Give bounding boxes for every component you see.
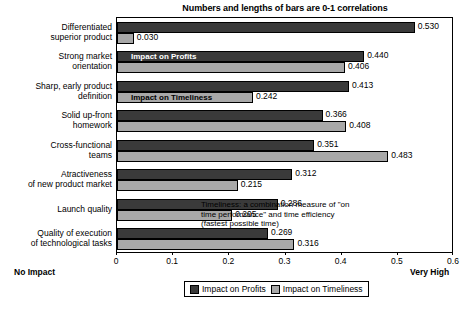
bar-impact-on-timeliness xyxy=(117,180,238,191)
y-axis-label-line: Sharp, early product xyxy=(0,81,112,91)
timeliness-annotation: Timeliness: a combination measure of "on… xyxy=(201,200,351,229)
x-axis-tick-mark xyxy=(172,252,173,255)
bar-impact-on-timeliness xyxy=(117,151,388,162)
y-axis-label: Strong marketorientation xyxy=(0,51,112,71)
bar-value-label: 0.530 xyxy=(418,21,439,32)
x-axis-tick-label: 0.4 xyxy=(335,256,347,266)
bar-row: 0.312 xyxy=(117,169,452,180)
y-axis-label-line: Differentiated xyxy=(0,22,112,32)
category-group: 0.3120.215 xyxy=(117,166,452,196)
bar-value-label: 0.440 xyxy=(367,50,388,61)
y-axis-label: Cross-functionalteams xyxy=(0,140,112,160)
bar-value-label: 0.030 xyxy=(137,32,158,43)
bar-row: 0.366 xyxy=(117,110,452,121)
y-axis-label-line: teams xyxy=(0,150,112,160)
bar-value-label: 0.413 xyxy=(352,80,373,91)
y-axis-category-labels: Differentiatedsuperior productStrong mar… xyxy=(0,17,112,253)
y-axis-label-line: orientation xyxy=(0,61,112,71)
y-axis-label-line: Atractiveness xyxy=(0,169,112,179)
category-group: 0.3660.408 xyxy=(117,107,452,137)
x-axis-tick-label: 0 xyxy=(114,256,119,266)
axis-endpoint-right: Very High xyxy=(410,267,449,277)
bar-impact-on-profits xyxy=(117,140,314,151)
category-group: 0.5300.030 xyxy=(117,18,452,48)
x-axis-tick-mark xyxy=(397,252,398,255)
y-axis-label-line: superior product xyxy=(0,32,112,42)
bar-value-label: 0.483 xyxy=(391,150,412,161)
chart-title: Numbers and lengths of bars are 0-1 corr… xyxy=(116,3,454,13)
y-axis-label-line: Quality of execution xyxy=(0,228,112,238)
y-axis-label: Solid up-fronthomework xyxy=(0,110,112,130)
legend-label: Impact on Profits xyxy=(202,284,266,294)
inbar-series-label: Impact on Timeliness xyxy=(131,92,212,103)
bar-impact-on-timeliness xyxy=(117,239,294,250)
x-axis-tick-mark xyxy=(341,252,342,255)
bar-row: 0.269 xyxy=(117,228,452,239)
x-axis-tick-mark xyxy=(116,252,117,255)
legend-item[interactable]: Impact on Profits xyxy=(190,284,266,294)
y-axis-label-line: Cross-functional xyxy=(0,140,112,150)
bar-row: 0.408 xyxy=(117,121,452,132)
category-group: 0.4130.242Impact on Timeliness xyxy=(117,77,452,107)
bar-row: 0.030 xyxy=(117,33,452,44)
bar-value-label: 0.242 xyxy=(256,91,277,102)
x-axis-tick-mark xyxy=(285,252,286,255)
bar-row: 0.215 xyxy=(117,180,452,191)
legend-label: Impact on Timeliness xyxy=(283,284,363,294)
bar-impact-on-profits xyxy=(117,81,349,92)
legend-swatch-icon xyxy=(271,285,280,294)
bar-value-label: 0.351 xyxy=(317,139,338,150)
y-axis-label-line: Strong market xyxy=(0,51,112,61)
x-axis-tick-mark xyxy=(228,252,229,255)
bar-row: 0.483 xyxy=(117,151,452,162)
bar-impact-on-timeliness xyxy=(117,33,134,44)
bar-row: 0.316 xyxy=(117,239,452,250)
x-axis-tick-mark xyxy=(452,252,453,255)
bar-row: 0.406 xyxy=(117,62,452,73)
bar-value-label: 0.316 xyxy=(297,238,318,249)
category-group: 0.3510.483 xyxy=(117,136,452,166)
bar-value-label: 0.269 xyxy=(271,227,292,238)
y-axis-label: Sharp, early productdefinition xyxy=(0,81,112,101)
x-axis-tick-label: 0.2 xyxy=(222,256,234,266)
bar-value-label: 0.215 xyxy=(241,179,262,190)
bar-chart: Numbers and lengths of bars are 0-1 corr… xyxy=(0,0,475,312)
y-axis-label: Differentiatedsuperior product xyxy=(0,22,112,42)
x-axis-tick-label: 0.5 xyxy=(391,256,403,266)
chart-legend: Impact on ProfitsImpact on Timeliness xyxy=(184,281,369,297)
bar-value-label: 0.406 xyxy=(348,61,369,72)
axis-endpoint-left: No Impact xyxy=(14,267,55,277)
bar-row: 0.440Impact on Profits xyxy=(117,51,452,62)
x-axis-tick-label: 0.6 xyxy=(447,256,459,266)
category-group: 0.2690.316 xyxy=(117,225,452,255)
bar-impact-on-timeliness xyxy=(117,62,345,73)
y-axis-label-line: Launch quality xyxy=(0,204,112,214)
y-axis-label-line: of new product market xyxy=(0,179,112,189)
bar-value-label: 0.366 xyxy=(326,109,347,120)
inbar-series-label: Impact on Profits xyxy=(131,51,196,62)
y-axis-label-line: of technological tasks xyxy=(0,238,112,248)
y-axis-label-line: Solid up-front xyxy=(0,110,112,120)
x-axis: 00.10.20.30.40.50.6 xyxy=(116,254,453,268)
legend-swatch-icon xyxy=(190,285,199,294)
x-axis-tick-label: 0.3 xyxy=(279,256,291,266)
y-axis-label-line: definition xyxy=(0,91,112,101)
category-group: 0.440Impact on Profits0.406 xyxy=(117,48,452,78)
bar-row: 0.530 xyxy=(117,22,452,33)
bar-row: 0.413 xyxy=(117,81,452,92)
y-axis-label-line: homework xyxy=(0,120,112,130)
bar-impact-on-timeliness xyxy=(117,121,346,132)
bar-impact-on-profits xyxy=(117,169,292,180)
bar-impact-on-profits xyxy=(117,22,415,33)
y-axis-label: Launch quality xyxy=(0,204,112,214)
bar-impact-on-profits xyxy=(117,228,268,239)
x-axis-tick-label: 0.1 xyxy=(166,256,178,266)
bar-value-label: 0.312 xyxy=(295,168,316,179)
bar-impact-on-profits xyxy=(117,110,323,121)
y-axis-label: Quality of executionof technological tas… xyxy=(0,228,112,248)
legend-item[interactable]: Impact on Timeliness xyxy=(271,284,363,294)
bar-row: 0.242Impact on Timeliness xyxy=(117,92,452,103)
y-axis-label: Atractivenessof new product market xyxy=(0,169,112,189)
bar-value-label: 0.408 xyxy=(349,120,370,131)
